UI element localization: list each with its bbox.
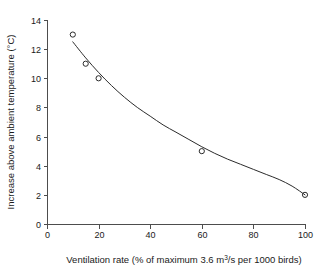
y-tick-label-12: 12 <box>31 45 41 55</box>
x-axis-title-after: /s per 1000 birds) <box>228 254 302 265</box>
axes <box>48 20 306 225</box>
y-axis-title-text: Increase above ambient temperature (°C) <box>5 35 16 210</box>
y-tick-label-10: 10 <box>31 74 41 84</box>
data-point-60-5 <box>199 149 204 154</box>
y-tick-label-4: 4 <box>36 162 41 172</box>
y-tick-label-6: 6 <box>36 133 41 143</box>
x-tick-label-60: 60 <box>197 230 207 240</box>
x-tick-label-100: 100 <box>298 230 313 240</box>
x-tick-label-40: 40 <box>145 230 155 240</box>
x-tick-label-80: 80 <box>248 230 258 240</box>
y-tick-label-2: 2 <box>36 191 41 201</box>
fit-curve <box>73 42 305 195</box>
y-axis-title: Increase above ambient temperature (°C) <box>5 35 16 210</box>
fit-curve-path <box>73 42 305 195</box>
scatter-plot: 02468101214020406080100 Increase above a… <box>0 0 325 275</box>
x-axis-title-text: Ventilation rate (% of maximum 3.6 m3/s … <box>66 254 301 265</box>
x-axis-title: Ventilation rate (% of maximum 3.6 m3/s … <box>66 254 301 265</box>
data-point-15-11 <box>83 61 88 66</box>
data-point-20-10 <box>96 76 101 81</box>
chart-figure: 02468101214020406080100 Increase above a… <box>0 0 325 275</box>
x-axis-title-before: Ventilation rate (% of maximum 3.6 m <box>66 254 224 265</box>
data-point-10-13 <box>70 32 75 37</box>
y-tick-label-14: 14 <box>31 16 41 26</box>
axis-tick-labels: 02468101214020406080100 <box>31 16 313 240</box>
y-tick-label-8: 8 <box>36 103 41 113</box>
data-markers <box>70 32 307 197</box>
x-tick-label-0: 0 <box>45 230 50 240</box>
x-tick-label-20: 20 <box>94 230 104 240</box>
y-tick-label-0: 0 <box>36 220 41 230</box>
axis-ticks <box>44 21 306 229</box>
